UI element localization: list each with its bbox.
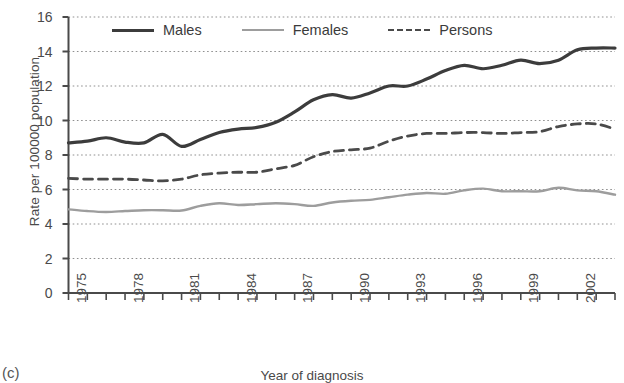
chart-legend: Males Females Persons bbox=[112, 22, 493, 38]
legend-entry-males: Males bbox=[112, 22, 202, 38]
y-tick-label: 4 bbox=[11, 216, 53, 232]
x-tick-label: 1993 bbox=[413, 273, 428, 303]
legend-entry-females: Females bbox=[242, 22, 349, 38]
x-tick-label: 1978 bbox=[131, 273, 146, 303]
legend-label-males: Males bbox=[163, 22, 202, 38]
y-tick-label: 12 bbox=[11, 78, 53, 94]
y-tick-label: 16 bbox=[11, 9, 53, 25]
x-tick-label: 1981 bbox=[187, 273, 202, 303]
y-tick-label: 6 bbox=[11, 182, 53, 198]
series-line-persons bbox=[69, 123, 616, 180]
y-tick-label: 14 bbox=[11, 44, 53, 60]
legend-label-persons: Persons bbox=[439, 22, 492, 38]
x-tick-label: 2002 bbox=[583, 273, 598, 303]
x-tick-label: 1987 bbox=[300, 273, 315, 303]
series-line-females bbox=[69, 188, 616, 212]
x-tick-label: 1999 bbox=[526, 273, 541, 303]
y-tick-label: 2 bbox=[11, 251, 53, 267]
legend-swatch-persons-dashed-line-icon bbox=[388, 29, 430, 31]
y-tick-label: 8 bbox=[11, 147, 53, 163]
y-tick-label: 0 bbox=[11, 285, 53, 301]
x-tick-label: 1984 bbox=[244, 273, 259, 303]
legend-swatch-females-line-icon bbox=[242, 29, 284, 31]
data-series-group bbox=[69, 48, 616, 212]
legend-swatch-males-line-icon bbox=[112, 29, 154, 32]
legend-entry-persons: Persons bbox=[388, 22, 492, 38]
y-tick-label: 10 bbox=[11, 113, 53, 129]
x-tick-label: 1975 bbox=[74, 273, 89, 303]
legend-label-females: Females bbox=[293, 22, 349, 38]
x-axis-label: Year of diagnosis bbox=[0, 368, 624, 383]
gridlines bbox=[69, 17, 616, 259]
x-tick-label: 1996 bbox=[470, 273, 485, 303]
x-tick-label: 1990 bbox=[357, 273, 372, 303]
